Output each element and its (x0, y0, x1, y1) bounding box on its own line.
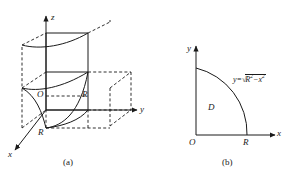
panel-b-graphics (196, 46, 275, 135)
x-axis-label-a: x (8, 150, 12, 159)
caption-panel-a: (a) (63, 158, 73, 167)
panel-a-hidden-edges (22, 20, 131, 128)
panel-a-curved-surfaces (22, 33, 88, 128)
curve-equation-label: y=√R2−x2 (233, 76, 266, 84)
radius-label-a-y: R (82, 90, 88, 99)
origin-label-b: O (189, 138, 196, 147)
equation-lhs: y= (233, 75, 242, 84)
radius-label-b: R (243, 138, 249, 147)
origin-label-a: O (37, 90, 44, 99)
y-axis-label-a: y (140, 105, 144, 114)
x-axis-label-b: x (277, 129, 281, 138)
y-axis-label-b: y (187, 44, 191, 53)
radius-label-a-x: R (38, 128, 44, 137)
subtrahend-exponent: 2 (262, 73, 265, 79)
caption-panel-b: (b) (222, 158, 233, 167)
z-axis-label-a: z (51, 13, 55, 22)
panel-a-graphics (15, 16, 137, 150)
math-figure: z y x O R R (a) y x D O R y=√R2−x2 (b) (0, 0, 288, 178)
region-label-d: D (208, 103, 215, 112)
